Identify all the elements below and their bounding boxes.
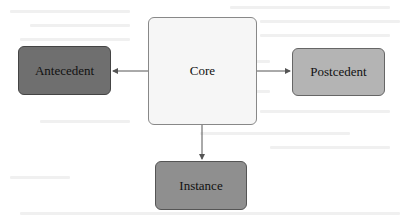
node-instance: Instance	[155, 161, 247, 210]
node-core: Core	[148, 17, 257, 125]
node-label: Antecedent	[35, 63, 94, 79]
node-antecedent: Antecedent	[18, 46, 111, 95]
node-label: Postcedent	[310, 64, 366, 80]
node-postcedent: Postcedent	[292, 48, 385, 96]
node-label: Core	[190, 63, 215, 79]
node-label: Instance	[179, 178, 222, 194]
